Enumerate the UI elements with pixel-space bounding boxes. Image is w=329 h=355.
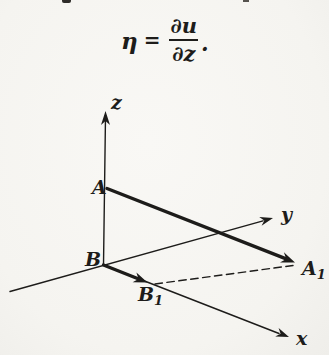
segment-b-to-b1 (104, 265, 141, 280)
dashed-line-b1-to-a1 (155, 266, 293, 285)
point-label-a1: A1 (302, 259, 326, 278)
z-axis-label: z (111, 93, 122, 112)
y-axis-label: y (281, 205, 292, 224)
point-label-b-main: B (85, 248, 101, 270)
point-label-a: A (92, 178, 107, 197)
point-label-b1-main: B (138, 283, 154, 305)
point-label-b1-sub: 1 (154, 293, 163, 308)
point-label-a-main: A (92, 176, 107, 198)
axes-diagram (0, 0, 329, 355)
segment-a-to-a1 (107, 189, 286, 259)
page: η = ∂u ∂z . z y x A B A1 B1 (0, 0, 329, 355)
point-label-a1-main: A (302, 257, 317, 279)
x-axis-label: x (296, 329, 307, 348)
point-label-a1-sub: 1 (317, 267, 326, 282)
point-label-b1: B1 (138, 285, 163, 304)
point-label-b: B (85, 250, 101, 269)
